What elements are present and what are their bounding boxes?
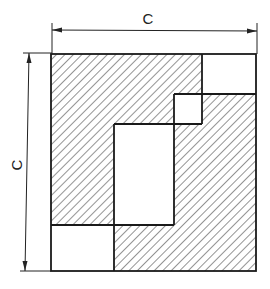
small-center-square bbox=[174, 94, 202, 124]
dimension-line bbox=[52, 30, 257, 31]
dimension-line bbox=[25, 53, 29, 271]
top-right-rect bbox=[202, 54, 256, 94]
bottom-left-square bbox=[51, 225, 114, 271]
arrow-down-icon bbox=[23, 261, 28, 271]
arrow-left-icon bbox=[52, 28, 62, 33]
arrow-right-icon bbox=[247, 29, 257, 34]
diagram-canvas: C C bbox=[0, 0, 270, 289]
arrow-up-icon bbox=[27, 53, 32, 63]
dimension-label-vertical: C bbox=[8, 159, 25, 170]
dimension-label-horizontal: C bbox=[143, 10, 154, 27]
horizontal-dimension bbox=[52, 23, 257, 54]
inner-center-rect bbox=[114, 124, 174, 225]
